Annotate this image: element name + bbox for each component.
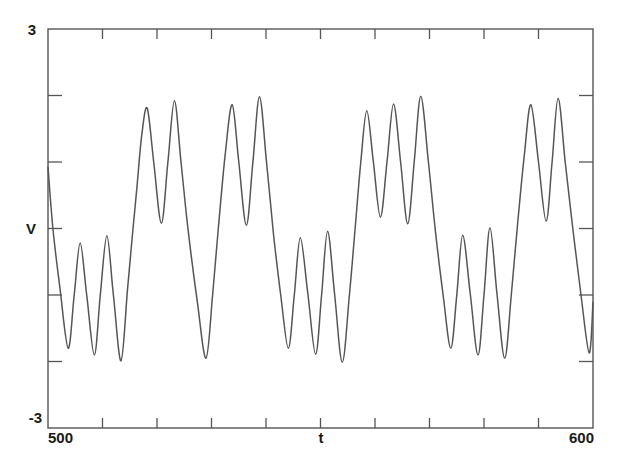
x-tick-label-right: 600 [569,429,594,446]
x-tick-label-left: 500 [48,429,73,446]
chart: 3 -3 V 500 600 t [0,0,619,469]
x-axis-label: t [319,429,324,446]
y-axis-label: V [26,220,36,237]
axis-ticks [48,29,593,428]
y-tick-label-bottom: -3 [29,409,42,426]
y-tick-label-top: 3 [28,21,36,38]
series-line-v [48,96,593,362]
plot-frame [48,29,593,428]
